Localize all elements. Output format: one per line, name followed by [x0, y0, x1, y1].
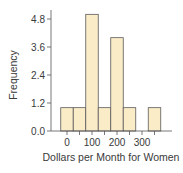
- x-tick-label: 0: [64, 137, 70, 148]
- histogram-bar: [61, 108, 74, 131]
- y-tick-label: 1.2: [31, 98, 45, 109]
- x-tick-label: 300: [134, 137, 151, 148]
- y-tick-label: 3.6: [31, 42, 45, 53]
- x-tick-label: 100: [84, 137, 101, 148]
- x-axis-label: Dollars per Month for Women: [43, 151, 180, 163]
- x-axis: 0100200300: [51, 131, 172, 148]
- histogram-bar: [111, 38, 124, 131]
- histogram-bar: [148, 108, 161, 131]
- y-tick-label: 2.4: [31, 70, 45, 81]
- y-axis: 0.01.22.43.64.8: [31, 10, 51, 137]
- histogram-bars: [61, 14, 161, 131]
- histogram-bar: [98, 108, 111, 131]
- histogram-chart: 0.01.22.43.64.8 0100200300 Frequency Dol…: [0, 0, 183, 173]
- y-tick-label: 0.0: [31, 126, 45, 137]
- histogram-bar: [123, 108, 136, 131]
- y-axis-label: Frequency: [7, 49, 19, 99]
- histogram-bar: [73, 108, 86, 131]
- y-tick-label: 4.8: [31, 14, 45, 25]
- x-tick-label: 200: [109, 137, 126, 148]
- histogram-bar: [86, 14, 99, 131]
